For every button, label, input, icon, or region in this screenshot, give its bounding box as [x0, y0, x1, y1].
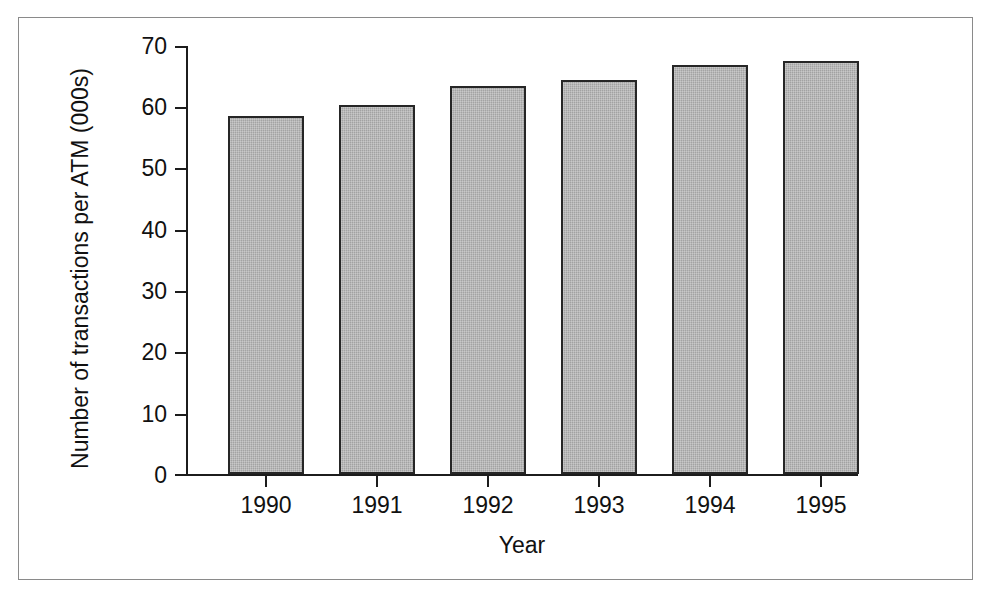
y-tick-label-20-wrap: 20 — [105, 341, 167, 365]
y-tick-label-70: 70 — [107, 35, 167, 58]
x-tick-1991 — [376, 476, 378, 487]
x-tick-1990 — [265, 476, 267, 487]
y-tick-label-70-wrap: 70 — [105, 35, 167, 59]
bar-1994 — [672, 65, 748, 474]
y-tick-label-0-wrap: 0 — [105, 464, 167, 488]
y-tick-30 — [175, 291, 186, 293]
y-tick-label-30: 30 — [107, 280, 167, 303]
y-tick-20 — [175, 352, 186, 354]
y-tick-70 — [175, 46, 186, 48]
x-tick-label-1991: 1991 — [322, 494, 432, 517]
x-axis-title: Year — [186, 532, 858, 559]
bar-chart: Number of transactions per ATM (000s) 70… — [0, 0, 990, 605]
y-tick-40 — [175, 230, 186, 232]
bar-1990 — [228, 116, 304, 474]
y-tick-label-10-wrap: 10 — [105, 403, 167, 427]
y-tick-10 — [175, 414, 186, 416]
y-tick-0 — [175, 474, 186, 476]
y-tick-label-20: 20 — [107, 341, 167, 364]
y-tick-label-0: 0 — [107, 464, 167, 487]
y-tick-label-60-wrap: 60 — [105, 96, 167, 120]
x-tick-1994 — [709, 476, 711, 487]
y-tick-label-50-wrap: 50 — [105, 157, 167, 181]
y-tick-label-60: 60 — [107, 96, 167, 119]
bar-1992 — [450, 86, 526, 474]
x-tick-label-1994: 1994 — [655, 494, 765, 517]
x-tick-1992 — [487, 476, 489, 487]
x-tick-label-1990: 1990 — [211, 494, 321, 517]
y-tick-label-40: 40 — [107, 219, 167, 242]
bar-1991 — [339, 105, 415, 474]
y-tick-label-10: 10 — [107, 403, 167, 426]
y-axis-line — [186, 46, 188, 476]
y-tick-label-30-wrap: 30 — [105, 280, 167, 304]
x-tick-1995 — [820, 476, 822, 487]
y-tick-60 — [175, 107, 186, 109]
y-tick-50 — [175, 168, 186, 170]
x-tick-label-1992: 1992 — [433, 494, 543, 517]
bar-1993 — [561, 80, 637, 474]
x-tick-label-1995: 1995 — [766, 494, 876, 517]
x-axis-line — [186, 474, 858, 476]
x-tick-1993 — [598, 476, 600, 487]
y-tick-label-40-wrap: 40 — [105, 219, 167, 243]
x-tick-label-1993: 1993 — [544, 494, 654, 517]
y-tick-label-50: 50 — [107, 157, 167, 180]
y-axis-title: Number of transactions per ATM (000s) — [67, 59, 94, 479]
bar-1995 — [783, 61, 859, 474]
